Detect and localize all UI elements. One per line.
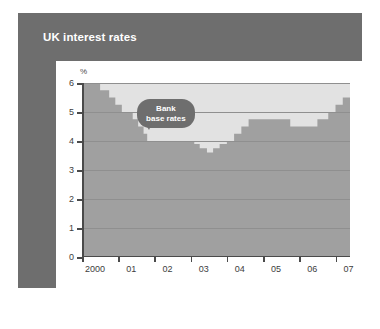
y-tick-6	[77, 83, 82, 85]
y-axis-unit-label: %	[80, 67, 87, 76]
x-tick-label-2000: 2000	[85, 264, 105, 274]
gridline-3	[82, 170, 350, 171]
x-axis-line	[82, 256, 350, 258]
x-tick-2003	[191, 257, 193, 262]
gridline-4	[82, 141, 350, 142]
y-tick-2	[77, 199, 82, 201]
y-tick-label-4: 4	[69, 136, 74, 146]
x-tick-label-2006: 06	[307, 264, 317, 274]
annotation-line-1: Bank	[146, 104, 186, 114]
x-tick-2000	[82, 257, 84, 262]
y-tick-5	[77, 112, 82, 114]
y-tick-label-3: 3	[69, 165, 74, 175]
x-tick-2006	[299, 257, 301, 262]
gridline-2	[82, 199, 350, 200]
y-tick-label-2: 2	[69, 194, 74, 204]
annotation-callout-tail	[144, 121, 153, 130]
x-tick-2007	[336, 257, 338, 262]
gridline-1	[82, 228, 350, 229]
x-tick-2002	[154, 257, 156, 262]
plot-area: 0123456 200001020304050607 Bank base rat…	[82, 83, 350, 257]
gridline-6	[82, 83, 350, 84]
y-tick-3	[77, 170, 82, 172]
x-tick-label-2001: 01	[126, 264, 136, 274]
chart-panel: UK interest rates % 0123456 200001020304…	[18, 13, 362, 288]
plot-card: % 0123456 200001020304050607 Bank base r…	[56, 61, 368, 301]
x-tick-2004	[227, 257, 229, 262]
y-axis-line	[82, 83, 84, 257]
page-title: UK interest rates	[43, 31, 137, 43]
x-tick-label-2003: 03	[199, 264, 209, 274]
y-tick-label-1: 1	[69, 223, 74, 233]
screenshot-root: UK interest rates % 0123456 200001020304…	[0, 0, 380, 329]
x-tick-label-2005: 05	[271, 264, 281, 274]
x-tick-2001	[118, 257, 120, 262]
y-tick-label-5: 5	[69, 107, 74, 117]
x-tick-label-2004: 04	[235, 264, 245, 274]
y-tick-label-6: 6	[69, 78, 74, 88]
x-tick-label-2002: 02	[162, 264, 172, 274]
y-tick-4	[77, 141, 82, 143]
x-tick-2005	[263, 257, 265, 262]
y-tick-label-0: 0	[69, 252, 74, 262]
gridline-5	[82, 112, 350, 113]
x-tick-label-2007: 07	[343, 264, 353, 274]
y-tick-1	[77, 228, 82, 230]
